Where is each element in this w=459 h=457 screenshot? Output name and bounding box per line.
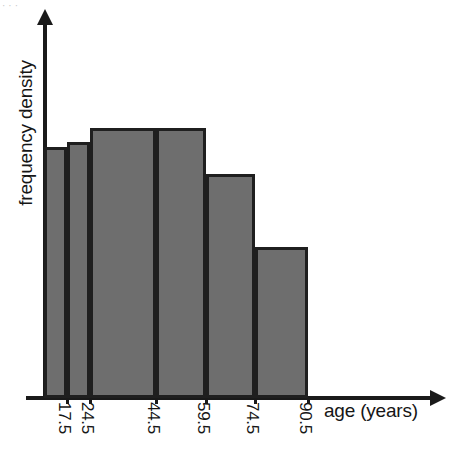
x-axis-tick-label: 74.5 [242,402,262,434]
x-axis-tick-label: 59.5 [193,402,213,434]
x-axis-tick-label: 17.5 [54,402,74,434]
x-axis-tick-label: 24.5 [77,402,97,434]
histogram-bar [206,174,256,398]
histogram-bar [90,128,156,398]
histogram-bar [44,147,67,398]
histogram-figure: ··· frequency density age (years) 17.524… [0,0,459,457]
x-axis-tick-label: 44.5 [143,402,163,434]
histogram-bar [156,128,206,398]
histogram-bar [255,247,308,398]
histogram-bar [67,142,90,399]
bar-series [0,0,459,457]
x-axis-tick-label: 90.5 [295,402,315,434]
